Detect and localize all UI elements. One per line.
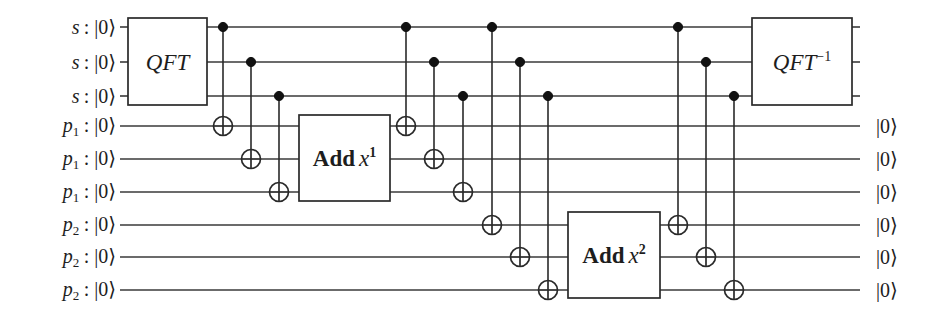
gate-label-qft-inverse: QFT−1 [773,50,831,74]
gate-box-group [128,18,852,298]
wire-output-label-p1c: |0⟩ [876,182,898,202]
cnot-group-4-control-1[interactable] [673,22,682,31]
gate-label-qft: QFT [146,50,189,73]
wire-output-label-p2c: |0⟩ [876,280,898,300]
gate-label-add-x2: Addx2 [582,243,645,267]
wire-output-label-p2a: |0⟩ [876,215,898,235]
wire-output-label-p1a: |0⟩ [876,116,898,136]
cnot-group-3-control-1[interactable] [487,22,496,31]
cnot-group-2-control-3[interactable] [458,91,467,100]
wire-input-label-s2: s:|0⟩ [72,86,116,106]
cnot-group-3-control-3[interactable] [543,91,552,100]
circuit-canvas [0,0,943,316]
cnot-group-1-control-1[interactable] [218,22,227,31]
wire-input-label-p1b: p1:|0⟩ [63,148,116,171]
wire-input-label-s0: s:|0⟩ [72,17,116,37]
wire-input-label-p2c: p2:|0⟩ [63,279,116,302]
wire-input-label-p2b: p2:|0⟩ [63,246,116,269]
cnot-group-1-control-2[interactable] [246,57,255,66]
cnot-group-2-control-2[interactable] [429,57,438,66]
cnot-group-3-control-2[interactable] [515,57,524,66]
cnot-group-1-control-3[interactable] [274,91,283,100]
quantum-circuit-figure: s:|0⟩s:|0⟩s:|0⟩p1:|0⟩|0⟩p1:|0⟩|0⟩p1:|0⟩|… [0,0,943,316]
wire-output-label-p2b: |0⟩ [876,247,898,267]
cnot-group-2-control-1[interactable] [401,22,410,31]
wire-input-label-p1a: p1:|0⟩ [63,115,116,138]
wire-input-label-p1c: p1:|0⟩ [63,181,116,204]
cnot-group-4-control-2[interactable] [701,57,710,66]
wire-group [120,27,860,290]
gate-label-add-x1: Addx1 [313,146,376,170]
cnot-group-4-control-3[interactable] [729,91,738,100]
wire-output-label-p1b: |0⟩ [876,149,898,169]
wire-input-label-p2a: p2:|0⟩ [63,214,116,237]
wire-input-label-s1: s:|0⟩ [72,52,116,72]
cnot-node-group [214,22,744,299]
